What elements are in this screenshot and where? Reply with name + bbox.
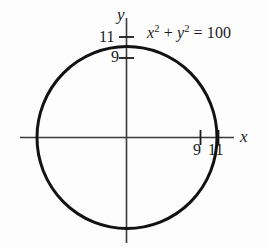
x-tick-label-9: 9 (193, 142, 201, 158)
equation-plus: + (164, 24, 173, 41)
y-tick-label-9: 9 (111, 49, 119, 65)
equation-annotation: x2 + y2 = 100 (147, 25, 231, 41)
y-tick-label-11: 11 (99, 29, 114, 45)
equation-value: 100 (207, 24, 231, 41)
x-axis-label: x (240, 128, 248, 145)
equation-equals: = (194, 24, 203, 41)
y-axis-label: y (117, 6, 125, 23)
x-tick-label-11: 11 (208, 142, 223, 158)
circle-graph-figure: y x 11 9 9 11 x2 + y2 = 100 (0, 0, 266, 247)
